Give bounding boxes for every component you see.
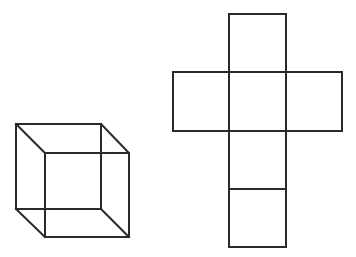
cube-edge-top-right (101, 124, 129, 153)
cube-edge-bottom-left (16, 209, 45, 237)
net-face-back (229, 189, 286, 247)
net-face-top (229, 14, 286, 72)
net-face-right (286, 72, 342, 131)
net-face-left (173, 72, 229, 131)
net-face-bottom (229, 131, 286, 189)
cube-edge-bottom-right (101, 209, 129, 237)
cube-edge-top-left (16, 124, 45, 153)
diagram-canvas (0, 0, 356, 257)
wireframe-cube (16, 124, 129, 237)
cube-net (173, 14, 342, 247)
net-face-front (229, 72, 286, 131)
